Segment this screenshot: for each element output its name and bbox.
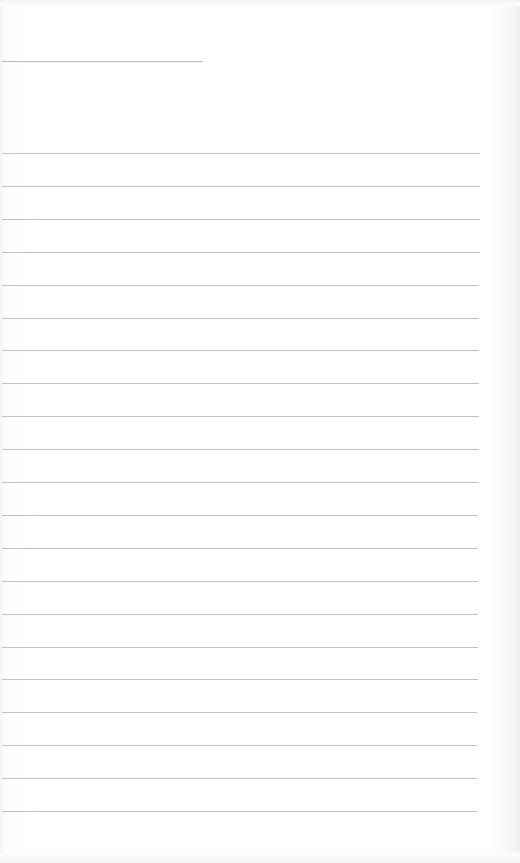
ruled-line bbox=[2, 778, 477, 779]
ruled-lines-area bbox=[0, 0, 520, 863]
ruled-line bbox=[2, 515, 478, 516]
ruled-line bbox=[2, 679, 478, 680]
ruled-line bbox=[2, 647, 478, 648]
ruled-line bbox=[2, 285, 479, 286]
ruled-line bbox=[2, 350, 479, 351]
ruled-line bbox=[2, 318, 479, 319]
ruled-line bbox=[2, 186, 480, 187]
ruled-line bbox=[2, 383, 479, 384]
ruled-line bbox=[2, 712, 477, 713]
ruled-line bbox=[2, 482, 479, 483]
ruled-line bbox=[2, 614, 478, 615]
ruled-line bbox=[2, 811, 477, 812]
ruled-line bbox=[2, 252, 480, 253]
ruled-line bbox=[2, 581, 478, 582]
ruled-line bbox=[2, 449, 479, 450]
page-bottom-edge bbox=[0, 853, 520, 863]
lined-paper-page bbox=[0, 0, 520, 863]
ruled-line bbox=[2, 416, 479, 417]
ruled-line bbox=[2, 548, 478, 549]
ruled-line bbox=[2, 745, 477, 746]
ruled-line bbox=[2, 153, 480, 154]
ruled-line bbox=[2, 219, 480, 220]
